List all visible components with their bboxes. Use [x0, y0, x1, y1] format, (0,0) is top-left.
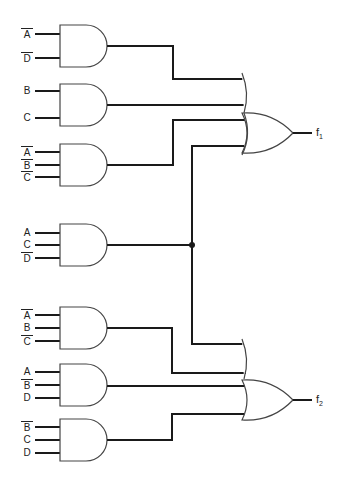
and-gate-5: [60, 307, 107, 349]
or-gate-2: [242, 339, 312, 420]
input-label: A: [21, 367, 33, 379]
input-label: B: [21, 421, 33, 435]
input-label: D: [21, 448, 33, 460]
input-label: D: [21, 252, 33, 266]
input-label: B: [21, 323, 33, 335]
input-label: C: [21, 171, 33, 185]
input-label: D: [21, 52, 33, 66]
input-label: C: [21, 435, 33, 447]
input-label: A: [21, 309, 33, 323]
and-gate-7: [60, 419, 107, 461]
input-label: C: [21, 335, 33, 349]
input-label: A: [21, 146, 33, 160]
input-label: C: [21, 113, 33, 125]
and-gate-6: [60, 364, 107, 406]
logic-circuit-diagram: [0, 0, 346, 494]
input-label: D: [21, 393, 33, 405]
and-gate-4: [60, 224, 107, 266]
output-label-f2: f2: [316, 393, 323, 407]
input-label: C: [21, 240, 33, 252]
input-label: B: [21, 86, 33, 98]
and-gate-2: [60, 84, 107, 126]
input-label: A: [21, 28, 33, 42]
output-subscript: 2: [319, 400, 323, 407]
and-gate-1: [60, 25, 107, 67]
input-label: B: [21, 379, 33, 393]
and-gate-3: [60, 144, 107, 186]
junction-dot: [189, 242, 195, 248]
output-subscript: 1: [319, 133, 323, 140]
interconnect-wires: [107, 46, 246, 440]
or-gate-1: [242, 73, 312, 155]
output-label-f1: f1: [316, 126, 323, 140]
input-wires: [35, 34, 60, 453]
